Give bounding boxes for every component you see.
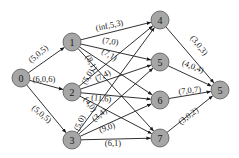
node-m7: 7: [151, 129, 169, 147]
node-m4: 4: [151, 11, 169, 29]
edge-label: (3,0,2): [176, 105, 200, 127]
node-label: 7: [158, 133, 163, 144]
node-label: 1: [70, 37, 75, 48]
edge-label: (9,0): [98, 120, 117, 135]
edge-label: (3,0,3): [188, 33, 210, 57]
node-n2: 2: [63, 83, 81, 101]
node-label: 4: [158, 15, 163, 26]
edge-label: (5,0,5): [30, 103, 54, 125]
edge-label: (7,1): [100, 46, 119, 63]
node-label: 3: [70, 135, 75, 146]
edge-label: (5,0,5): [26, 42, 50, 64]
edge-label: (4,0,4): [181, 57, 206, 75]
node-label: 0: [19, 73, 24, 84]
node-n3: 3: [63, 131, 81, 149]
node-t: 5: [211, 81, 229, 99]
edge-label: (7,0,7): [178, 84, 202, 96]
edge-4-to-5: [166, 27, 214, 83]
node-s: 0: [12, 69, 30, 87]
node-label: 6: [158, 95, 163, 106]
node-m5: 5: [151, 53, 169, 71]
node-label: 2: [70, 87, 75, 98]
flow-network-diagram: (5,0,5)(6,0,6)(5,0,5)(inf,5,3)(7,0)(7,1)…: [0, 0, 239, 158]
edge-label: (6,1): [105, 138, 121, 148]
node-m6: 6: [151, 91, 169, 109]
edge-labels-layer: (5,0,5)(6,0,6)(5,0,5)(inf,5,3)(7,0)(7,1)…: [26, 17, 210, 148]
node-n1: 1: [63, 33, 81, 51]
edge-label: (6,0,6): [33, 74, 56, 84]
node-label: 5: [158, 57, 163, 68]
node-label: 5: [218, 85, 223, 96]
